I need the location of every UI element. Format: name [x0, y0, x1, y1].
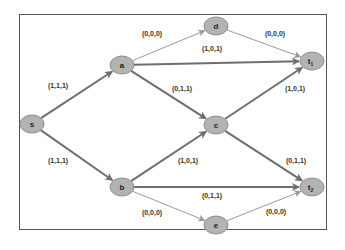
edge-label-b-e: (0,0,0) — [142, 209, 162, 217]
edge-label-a-d: (0,0,0) — [142, 30, 162, 38]
edge-c-t1 — [225, 68, 302, 119]
edge-a-c — [131, 71, 206, 119]
node-c: c — [204, 116, 228, 134]
node-t2: t2 — [300, 178, 324, 196]
edge-label-b-t2: (0,1,1) — [202, 192, 222, 200]
nodes-layer: sabcdet1t2 — [20, 17, 324, 234]
edge-d-t1 — [227, 30, 300, 57]
node-t1: t1 — [300, 52, 324, 70]
node-e: e — [204, 216, 228, 234]
edge-label-d-t1: (0,0,0) — [265, 30, 285, 38]
node-b: b — [110, 178, 134, 196]
edge-s-a — [41, 71, 112, 118]
edge-c-t2 — [225, 131, 302, 181]
node-label-b: b — [120, 183, 125, 192]
edge-label-e-t2: (0,0,0) — [266, 208, 286, 216]
edge-e-t2 — [227, 192, 301, 221]
edge-a-t1 — [134, 61, 299, 64]
node-label-d: d — [214, 22, 219, 31]
edge-s-b — [41, 130, 113, 180]
edge-label-s-a: (1,1,1) — [48, 82, 68, 90]
node-d: d — [204, 17, 228, 35]
edges-layer — [41, 30, 302, 221]
node-a: a — [110, 56, 134, 74]
node-s: s — [20, 115, 44, 133]
edge-label-a-t1: (1,0,1) — [202, 45, 222, 53]
node-label-a: a — [120, 61, 125, 70]
edge-label-c-t2: (0,1,1) — [286, 157, 306, 165]
edge-label-s-b: (1,1,1) — [48, 157, 68, 165]
node-label-c: c — [214, 121, 219, 130]
flow-network-graph: (1,1,1)(1,1,1)(0,0,0)(1,0,1)(0,1,1)(0,0,… — [0, 0, 345, 250]
node-label-e: e — [214, 221, 219, 230]
edge-label-c-t1: (1,0,1) — [285, 85, 305, 93]
edge-label-a-c: (0,1,1) — [172, 85, 192, 93]
node-label-s: s — [30, 120, 35, 129]
edge-labels-layer: (1,1,1)(1,1,1)(0,0,0)(1,0,1)(0,1,1)(0,0,… — [48, 30, 306, 217]
edge-label-b-c: (1,0,1) — [178, 157, 198, 165]
